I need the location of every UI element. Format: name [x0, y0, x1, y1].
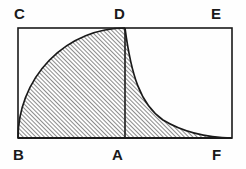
- vertex-label-F: F: [212, 147, 221, 162]
- geometry-figure: C D E B A F: [0, 0, 246, 169]
- vertex-label-C: C: [14, 6, 25, 21]
- vertex-label-D: D: [114, 6, 125, 21]
- vertex-label-A: A: [112, 147, 123, 162]
- geometry-canvas: [0, 0, 246, 169]
- vertex-label-E: E: [211, 6, 221, 21]
- vertex-label-B: B: [13, 147, 24, 162]
